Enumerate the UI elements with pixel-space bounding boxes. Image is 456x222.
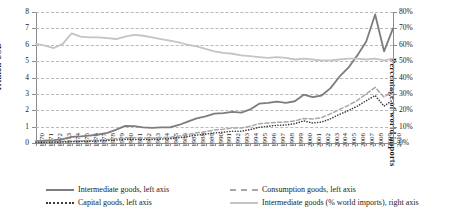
legend-key-icon (230, 186, 258, 194)
series-line (36, 14, 393, 141)
legend-label: Capital goods, left axis (78, 198, 152, 208)
legend-key-icon (230, 199, 258, 207)
series-line (36, 33, 393, 60)
legend-item[interactable]: Intermediate goods, left axis (46, 185, 169, 195)
legend-label: Consumption goods, left axis (262, 185, 356, 195)
legend-item[interactable]: Intermediate goods (% world imports), ri… (230, 198, 419, 208)
legend-key-icon (46, 199, 74, 207)
legend-item[interactable]: Consumption goods, left axis (230, 185, 356, 195)
chart-container: Trillion USD Percentage of world imports… (0, 0, 456, 222)
legend-key-icon (46, 186, 74, 194)
legend-label: Intermediate goods, left axis (78, 185, 169, 195)
chart-legend: Intermediate goods, left axisCapital goo… (18, 184, 448, 218)
legend-item[interactable]: Capital goods, left axis (46, 198, 152, 208)
legend-label: Intermediate goods (% world imports), ri… (262, 198, 419, 208)
series-line (36, 87, 393, 142)
